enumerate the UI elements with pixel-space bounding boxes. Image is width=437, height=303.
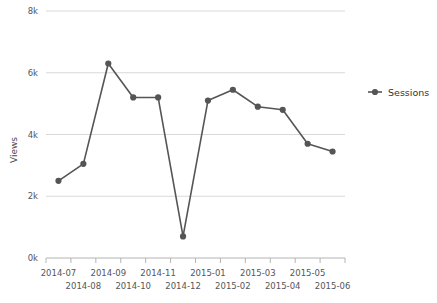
y-tick-labels-group: 0k2k4k6k8k bbox=[28, 6, 38, 263]
chart-legend: Sessions bbox=[368, 87, 429, 98]
x-tick-label: 2015-02 bbox=[215, 281, 251, 291]
chart-container: 0k2k4k6k8k 2014-072014-082014-092014-102… bbox=[0, 0, 437, 303]
data-point-marker[interactable] bbox=[105, 60, 111, 66]
x-tick-label: 2014-11 bbox=[140, 268, 176, 278]
x-tick-label: 2014-07 bbox=[41, 268, 77, 278]
y-tick-label: 4k bbox=[28, 130, 38, 140]
x-tick-label: 2014-10 bbox=[115, 281, 151, 291]
y-axis-title: Views bbox=[9, 137, 19, 163]
data-point-marker[interactable] bbox=[130, 94, 136, 100]
data-point-marker[interactable] bbox=[230, 87, 236, 93]
data-point-marker[interactable] bbox=[80, 161, 86, 167]
data-point-marker[interactable] bbox=[329, 148, 335, 154]
y-tick-label: 2k bbox=[28, 191, 38, 201]
data-point-marker[interactable] bbox=[180, 233, 186, 239]
data-point-marker[interactable] bbox=[55, 178, 61, 184]
x-tick-label: 2014-12 bbox=[165, 281, 201, 291]
data-point-marker[interactable] bbox=[280, 107, 286, 113]
x-tick-label: 2015-01 bbox=[190, 268, 226, 278]
data-point-marker[interactable] bbox=[205, 97, 211, 103]
data-series-group bbox=[55, 60, 335, 239]
x-tick-label: 2014-09 bbox=[91, 268, 127, 278]
y-tick-label: 0k bbox=[28, 253, 38, 263]
y-tick-label: 6k bbox=[28, 68, 38, 78]
x-tick-label: 2015-06 bbox=[315, 281, 351, 291]
x-tick-label: 2015-05 bbox=[290, 268, 326, 278]
sessions-line-chart: 0k2k4k6k8k 2014-072014-082014-092014-102… bbox=[0, 0, 437, 303]
data-point-marker[interactable] bbox=[255, 104, 261, 110]
data-point-marker[interactable] bbox=[155, 94, 161, 100]
x-tick-label: 2015-04 bbox=[265, 281, 301, 291]
x-tick-label: 2014-08 bbox=[66, 281, 102, 291]
x-tick-label: 2015-03 bbox=[240, 268, 276, 278]
data-point-marker[interactable] bbox=[305, 141, 311, 147]
series-line bbox=[58, 63, 332, 236]
x-tick-labels-group: 2014-072014-082014-092014-102014-112014-… bbox=[41, 268, 351, 291]
legend-dot-marker bbox=[372, 89, 378, 95]
y-tick-label: 8k bbox=[28, 6, 38, 16]
legend-label-sessions: Sessions bbox=[388, 87, 429, 98]
x-tick-marks-group bbox=[46, 258, 345, 263]
